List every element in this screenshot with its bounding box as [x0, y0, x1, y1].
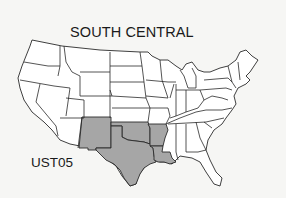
region-code-label: UST05 [31, 155, 73, 170]
state-new-mexico [79, 117, 111, 150]
